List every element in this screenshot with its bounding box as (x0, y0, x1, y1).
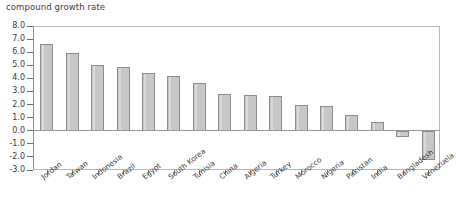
bar (117, 67, 130, 131)
y-axis-tick (27, 26, 33, 27)
y-axis-tick-label: 5.0 (0, 61, 25, 69)
y-axis-tick (27, 52, 33, 53)
y-axis-tick (27, 39, 33, 40)
y-axis-tick (27, 156, 33, 157)
y-axis-tick (27, 78, 33, 79)
y-axis-tick (27, 65, 33, 66)
x-axis-labels: JordanTaiwanIndonesiaBrazilEgyptSouth Ko… (0, 175, 449, 210)
y-axis-tick (27, 170, 33, 171)
bar (244, 95, 257, 130)
bar (66, 53, 79, 131)
bar (295, 105, 308, 131)
y-axis-tick-label: 6.0 (0, 48, 25, 56)
y-axis-tick-label: 8.0 (0, 22, 25, 30)
y-axis-tick (27, 117, 33, 118)
bar (40, 44, 53, 130)
y-axis-tick (27, 143, 33, 144)
bar (193, 83, 206, 131)
bar-series (34, 26, 439, 170)
y-axis-title: compound growth rate (6, 2, 105, 13)
bar (218, 94, 231, 131)
bar (142, 73, 155, 131)
y-axis-tick-label: -3.0 (0, 166, 25, 174)
y-axis-tick (27, 104, 33, 105)
y-axis-tick-label: 0.0 (0, 127, 25, 135)
y-axis-tick-label: -1.0 (0, 140, 25, 148)
y-axis-tick-label: 7.0 (0, 35, 25, 43)
y-axis-tick-label: 1.0 (0, 114, 25, 122)
y-axis-tick-label: 2.0 (0, 101, 25, 109)
y-axis-tick-label: -2.0 (0, 153, 25, 161)
y-axis-tick (27, 91, 33, 92)
bar (345, 115, 358, 131)
bar (91, 65, 104, 130)
bar (167, 76, 180, 131)
bar (320, 106, 333, 131)
bar (396, 131, 409, 138)
bar (269, 96, 282, 131)
zero-baseline (33, 130, 440, 131)
y-axis-tick-label: 4.0 (0, 74, 25, 82)
y-axis-tick-label: 3.0 (0, 87, 25, 95)
